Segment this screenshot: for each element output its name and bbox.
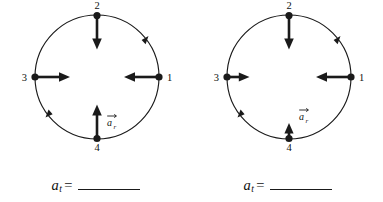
diagram-panel-left: 2 1 3 4 a xyxy=(0,0,191,202)
circle-diagram-left: 2 1 3 4 a xyxy=(0,0,191,165)
at-symbol: a xyxy=(51,178,58,193)
figure-canvas: 2 1 3 4 a xyxy=(0,0,383,202)
point-marker-1 xyxy=(155,73,162,80)
radial-acceleration-label: a r xyxy=(299,108,309,124)
radial-accel-subscript: r xyxy=(306,117,309,125)
vector-at-point-2 xyxy=(284,16,294,50)
point-marker-3 xyxy=(223,73,230,80)
tangential-acceleration-row-right: at= xyxy=(192,168,383,202)
point-label-4: 4 xyxy=(286,142,292,153)
point-label-2: 2 xyxy=(94,0,99,11)
tangential-acceleration-formula: at= xyxy=(243,178,331,193)
radial-accel-symbol: a xyxy=(299,111,304,122)
at-subscript: t xyxy=(59,185,62,195)
point-marker-2 xyxy=(285,12,292,19)
tangential-acceleration-formula: at= xyxy=(51,178,139,193)
point-label-2: 2 xyxy=(286,0,291,11)
point-label-4: 4 xyxy=(94,142,100,153)
circle-diagram-right: 2 1 3 4 a xyxy=(192,0,383,165)
at-subscript: t xyxy=(251,185,254,195)
answer-blank-left[interactable] xyxy=(78,178,140,190)
vector-at-point-1 xyxy=(316,72,351,82)
point-label-1: 1 xyxy=(167,72,172,83)
point-label-3: 3 xyxy=(214,72,219,83)
radial-acceleration-label: a r xyxy=(107,114,117,130)
radial-accel-symbol: a xyxy=(107,117,112,128)
point-marker-1 xyxy=(347,73,354,80)
equals-sign: = xyxy=(64,178,72,193)
point-marker-2 xyxy=(93,12,100,19)
vector-at-point-1 xyxy=(124,72,159,82)
point-label-1: 1 xyxy=(359,72,364,83)
point-marker-3 xyxy=(31,73,38,80)
vector-at-point-4 xyxy=(92,105,102,139)
tangential-acceleration-row-left: at= xyxy=(0,168,191,202)
radial-accel-subscript: r xyxy=(114,123,117,131)
equals-sign: = xyxy=(256,178,264,193)
point-label-3: 3 xyxy=(22,72,27,83)
diagram-panel-right: 2 1 3 4 a xyxy=(192,0,383,202)
at-symbol: a xyxy=(243,178,250,193)
vector-at-point-2 xyxy=(92,16,102,50)
vector-at-point-3 xyxy=(35,72,70,82)
answer-blank-right[interactable] xyxy=(270,178,332,190)
